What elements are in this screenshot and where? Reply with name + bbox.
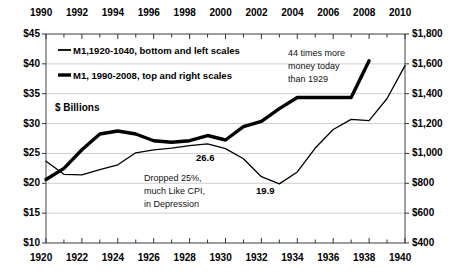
annotation-money-line-2: money today <box>288 61 340 71</box>
bottom-axis-tick-label: 1930 <box>210 252 232 263</box>
top-axis-tick-label: 2008 <box>353 7 375 18</box>
top-axis-tick-label: 1994 <box>102 7 124 18</box>
annotation-depression-line-1: Dropped 25%, <box>144 173 202 183</box>
annotation-depression-line-2: much Like CPI, <box>144 186 205 196</box>
top-axis-tick-label: 2006 <box>317 7 339 18</box>
right-axis-tick-label: $800 <box>412 177 434 188</box>
bottom-axis-tick-label: 1928 <box>174 252 196 263</box>
annotation-money-line-1: 44 times more <box>288 48 345 58</box>
legend-label-1: M1,1920-1040, bottom and left scales <box>73 45 240 56</box>
right-axis-tick-label: $400 <box>412 237 434 248</box>
left-axis-tick-label: $10 <box>2 237 40 248</box>
legend-label-2: M1, 1990-2008, top and right scales <box>73 70 232 81</box>
bottom-axis-tick-label: 1924 <box>102 252 124 263</box>
bottom-axis-tick-label: 1940 <box>389 252 411 263</box>
right-axis-tick-label: $600 <box>412 207 434 218</box>
top-axis-tick-label: 1998 <box>174 7 196 18</box>
top-axis-tick-label: 2004 <box>281 7 303 18</box>
bottom-axis-tick-label: 1922 <box>66 252 88 263</box>
top-axis-tick-label: 1990 <box>30 7 52 18</box>
left-axis-tick-label: $15 <box>2 207 40 218</box>
top-axis-tick-label: 1996 <box>138 7 160 18</box>
annotation-depression-line-3: in Depression <box>144 199 199 209</box>
series-line-1 <box>46 66 405 184</box>
left-axis-tick-label: $40 <box>2 58 40 69</box>
right-axis-tick-label: $1,600 <box>412 58 443 69</box>
chart-canvas <box>0 0 454 274</box>
units-label: $ Billions <box>55 102 99 113</box>
top-axis-tick-label: 2000 <box>210 7 232 18</box>
annotation-money-line-3: than 1929 <box>288 74 328 84</box>
right-axis-tick-label: $1,200 <box>412 118 443 129</box>
bottom-axis-tick-label: 1938 <box>353 252 375 263</box>
top-axis-tick-label: 1992 <box>66 7 88 18</box>
annotation-trough-value: 19.9 <box>256 185 275 196</box>
bottom-axis-tick-label: 1936 <box>317 252 339 263</box>
left-axis-tick-label: $45 <box>2 28 40 39</box>
top-axis-tick-label: 2010 <box>389 7 411 18</box>
left-axis-tick-label: $30 <box>2 118 40 129</box>
right-axis-tick-label: $1,400 <box>412 88 443 99</box>
chart-container: 1990199219941996199820002002200420062008… <box>0 0 454 274</box>
left-axis-tick-label: $35 <box>2 88 40 99</box>
bottom-axis-tick-label: 1934 <box>281 252 303 263</box>
bottom-axis-tick-label: 1920 <box>30 252 52 263</box>
bottom-axis-tick-label: 1926 <box>138 252 160 263</box>
left-axis-tick-label: $25 <box>2 147 40 158</box>
left-axis-tick-label: $20 <box>2 177 40 188</box>
right-axis-tick-label: $1,800 <box>412 28 443 39</box>
top-axis-tick-label: 2002 <box>245 7 267 18</box>
annotation-peak-value: 26.6 <box>196 152 215 163</box>
right-axis-tick-label: $1,000 <box>412 147 443 158</box>
bottom-axis-tick-label: 1932 <box>245 252 267 263</box>
